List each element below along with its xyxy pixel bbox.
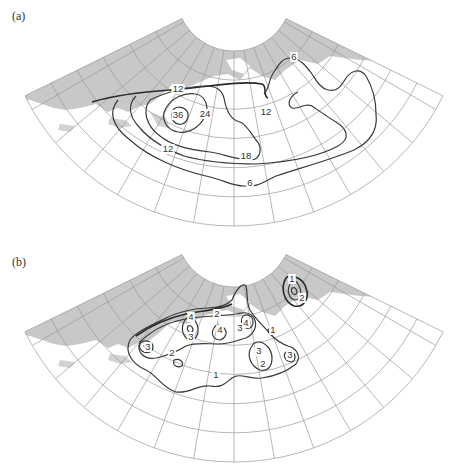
land-ice-shading (0, 0, 466, 112)
contour-label: 2 (214, 308, 219, 319)
contour-label: 36 (173, 109, 184, 120)
contour-label: 2 (260, 358, 265, 369)
map-panel-b: 122443431323231 (0, 236, 466, 462)
map-panel-a: 12362412121866 (0, 0, 466, 226)
figure-canvas: 12362412121866 (0, 0, 466, 472)
contour-label: 12 (173, 83, 184, 94)
contour-label: 6 (291, 51, 296, 62)
contour-label: 1 (289, 273, 294, 284)
contour-label: 1 (213, 369, 218, 380)
contour-label: 4 (243, 317, 248, 328)
contour-label: 18 (241, 150, 252, 161)
contour-label: 6 (247, 177, 252, 188)
contour-label: 24 (200, 108, 211, 119)
contour-label: 3 (287, 349, 292, 360)
contour-label: 4 (188, 311, 193, 322)
contour-label: 12 (163, 143, 174, 154)
contour-label: 4 (217, 324, 222, 335)
land-ice-shading (0, 236, 466, 348)
contour-label: 3 (145, 341, 150, 352)
contour-label: 3 (188, 331, 193, 342)
contour-label: 12 (261, 106, 272, 117)
contour-label: 2 (169, 347, 174, 358)
contour-label: 2 (299, 292, 304, 303)
contour-label: 3 (256, 345, 261, 356)
contour-label: 3 (237, 322, 242, 333)
contour-label: 1 (270, 324, 275, 335)
